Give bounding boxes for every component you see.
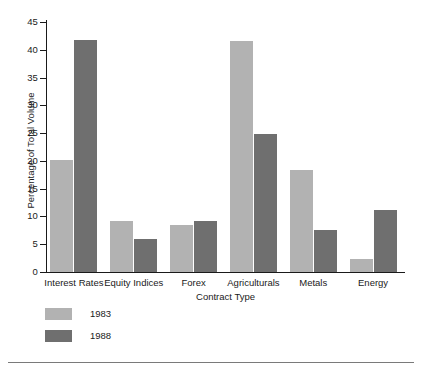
plot-area [46, 22, 405, 272]
bar-1988-agriculturals [254, 134, 277, 272]
y-axis-title-wrap: Percentage of Total Volume [0, 0, 46, 272]
legend-swatch-1983 [45, 308, 72, 320]
bar-1983-agriculturals [230, 41, 253, 272]
bar-1988-metals [314, 230, 337, 272]
y-axis-title: Percentage of Total Volume [25, 71, 36, 231]
footer-divider [8, 362, 414, 363]
bar-chart-figure: 051015202530354045 Interest RatesEquity … [0, 0, 422, 375]
bar-1983-equity-indices [110, 221, 133, 272]
legend-label-1983: 1983 [90, 307, 111, 320]
bar-1983-metals [290, 170, 313, 272]
x-axis-label-energy: Energy [313, 277, 422, 288]
bar-1983-energy [350, 259, 373, 272]
legend-label-1988: 1988 [90, 329, 111, 342]
x-axis-title: Contract Type [46, 291, 405, 302]
bar-1983-interest-rates [50, 160, 73, 272]
bar-1988-equity-indices [134, 239, 157, 272]
bar-1983-forex [170, 225, 193, 272]
bar-1988-interest-rates [74, 40, 97, 272]
legend-swatch-1988 [45, 330, 72, 342]
bar-1988-energy [374, 210, 397, 272]
x-axis-line [46, 272, 405, 273]
y-axis-tick [40, 272, 47, 273]
bar-1988-forex [194, 221, 217, 272]
